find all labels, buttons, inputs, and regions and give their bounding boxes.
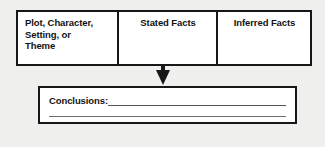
conclusions-write-line-1[interactable] [108,105,286,106]
arrow-head [156,70,170,85]
conclusions-label: Conclusions: [49,95,108,107]
graphic-organizer: Plot, Character, Setting, or Theme State… [0,0,325,147]
conclusions-write-line-2[interactable] [49,116,286,117]
column-header-label: Plot, Character, Setting, or Theme [25,17,111,52]
column-header-label: Inferred Facts [225,17,304,29]
facts-table: Plot, Character, Setting, or Theme State… [16,10,312,66]
table-cell-stated-facts[interactable]: Stated Facts [117,12,216,64]
table-cell-inferred-facts[interactable]: Inferred Facts [216,12,310,64]
down-arrow-icon [156,66,170,85]
conclusions-first-row: Conclusions: [49,93,286,107]
conclusions-box[interactable]: Conclusions: [38,86,297,124]
column-header-label: Stated Facts [126,17,210,29]
table-cell-plot-character-setting-theme[interactable]: Plot, Character, Setting, or Theme [18,12,117,64]
